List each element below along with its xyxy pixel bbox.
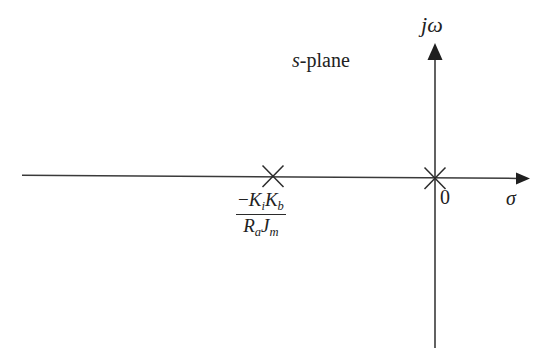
axes-and-poles-svg [0,0,553,364]
plane-caption-suffix: -plane [300,49,350,71]
imaginary-axis-label: jω [421,14,443,36]
numerator-k-b-subscript: b [278,199,284,213]
denominator-j-m: J [261,215,269,236]
real-axis-arrowhead [516,172,530,184]
origin-label: 0 [440,187,450,207]
denominator-r-a: R [243,215,255,236]
denominator-j-m-subscript: m [270,225,279,239]
numerator-k-b: K [265,189,278,210]
pole-value-numerator: −KiKb [236,190,286,215]
real-axis-label: σ [506,188,516,208]
numerator-k-i: K [249,189,262,210]
imaginary-axis-label-omega: ω [427,12,443,37]
plane-caption-s: s [292,49,300,71]
minus-sign: − [238,189,249,210]
pole-value-fraction: −KiKb RaJm [236,190,286,238]
imaginary-axis-arrowhead [428,43,443,60]
s-plane-figure: jω σ 0 s-plane −KiKb RaJm [0,0,553,364]
pole-value-label: −KiKb RaJm [236,190,286,238]
pole-value-denominator: RaJm [236,215,286,239]
real-axis-line [22,175,518,178]
plane-caption: s-plane [292,50,350,70]
